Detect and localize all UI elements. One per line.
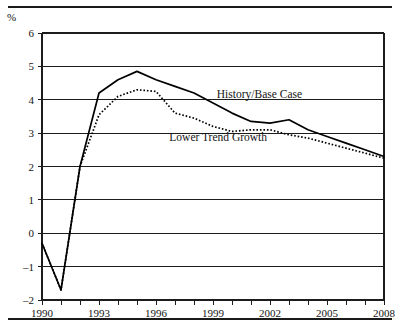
y-tick-label--1: –1 bbox=[22, 261, 34, 273]
y-tick-label-2: 2 bbox=[29, 161, 35, 173]
y-tick-label--2: –2 bbox=[22, 294, 34, 306]
series-annotation-history-base-case: History/Base Case bbox=[217, 88, 302, 101]
x-axis-tickmarks bbox=[42, 300, 384, 305]
x-tick-label-1993: 1993 bbox=[88, 307, 111, 319]
x-axis-tick-labels: 1990199319961999200220052008 bbox=[31, 307, 396, 319]
y-tick-label-0: 0 bbox=[29, 227, 35, 239]
x-tick-label-1990: 1990 bbox=[31, 307, 54, 319]
x-tick-label-2008: 2008 bbox=[373, 307, 396, 319]
series-annotations: History/Base CaseLower Trend Growth bbox=[169, 88, 302, 143]
line-chart-plot: 6543210–1–2 1990199319961999200220052008… bbox=[0, 0, 400, 327]
y-tick-label-5: 5 bbox=[29, 60, 35, 72]
x-tick-label-1996: 1996 bbox=[145, 307, 168, 319]
x-tick-label-1999: 1999 bbox=[202, 307, 225, 319]
y-tick-label-1: 1 bbox=[29, 194, 35, 206]
series-line-lower-trend-growth bbox=[42, 90, 384, 290]
x-tick-label-2005: 2005 bbox=[316, 307, 339, 319]
y-tick-label-6: 6 bbox=[29, 27, 35, 39]
series-annotation-lower-trend-growth: Lower Trend Growth bbox=[169, 131, 267, 143]
series-line-history-base-case bbox=[42, 71, 384, 290]
y-tick-label-3: 3 bbox=[29, 127, 35, 139]
y-axis-tick-labels: 6543210–1–2 bbox=[22, 27, 35, 306]
x-tick-label-2002: 2002 bbox=[259, 307, 281, 319]
y-tick-label-4: 4 bbox=[29, 94, 35, 106]
data-series bbox=[42, 71, 384, 290]
chart-figure: % 6543210–1–2 19901993199619992002200520… bbox=[0, 0, 400, 327]
gridlines bbox=[42, 33, 384, 267]
